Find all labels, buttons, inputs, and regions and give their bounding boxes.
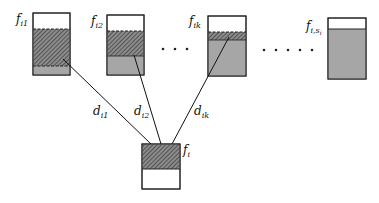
ellipsis-dots-1 [162, 48, 189, 51]
label-f-ik: fik [188, 14, 201, 30]
ellipsis-dots-2 [263, 49, 314, 52]
label-f-isi: fi,si [305, 19, 322, 36]
file-box-i1 [33, 13, 70, 75]
edge-d-ik [172, 37, 229, 144]
file-box-ik [208, 16, 246, 76]
diagram-canvas: fi1 fi2 fik fi,si fi di1 di2 dik [0, 0, 379, 203]
label-d-i2: di2 [134, 104, 149, 120]
label-d-ik: dik [194, 104, 209, 120]
label-f-i2: fi2 [90, 14, 103, 30]
target-file-box [142, 144, 180, 189]
file-box-isi [328, 18, 366, 79]
label-f-i: fi [182, 143, 190, 159]
label-d-i1: di1 [93, 104, 108, 120]
label-f-i1: fi1 [15, 12, 28, 28]
edge-d-i2 [134, 55, 161, 144]
file-box-i2 [107, 15, 144, 75]
